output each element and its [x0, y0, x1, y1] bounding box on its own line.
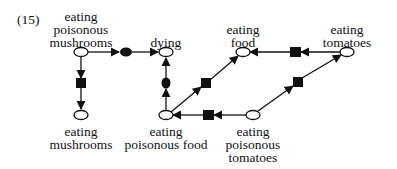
link-square-2 — [201, 78, 211, 88]
label-eating-tomatoes: eating tomatoes — [323, 23, 372, 49]
node-eating-poisonous-food — [159, 111, 173, 120]
link-ellipse-2 — [162, 78, 171, 89]
label-eating-poisonous-tomatoes: eating poisonous tomatoes — [226, 125, 281, 164]
link-square-4 — [293, 77, 303, 87]
edge-square-to-food — [210, 56, 238, 80]
label-eating-poisonous-mushrooms: eating poisonous mushrooms — [49, 10, 112, 49]
node-eating-mushrooms — [74, 111, 88, 120]
label-eating-mushrooms: eating mushrooms — [49, 125, 112, 151]
link-square-1 — [76, 78, 86, 88]
node-eating-poisonous-tomatoes — [246, 111, 260, 120]
edge-pf-to-square — [171, 87, 201, 112]
edge-square-to-tomatoes — [302, 55, 341, 78]
link-ellipse-1 — [120, 48, 132, 57]
link-square-3 — [290, 47, 301, 57]
label-eating-food: eating food — [227, 23, 260, 49]
link-square-5 — [203, 110, 214, 120]
edge-pt-to-square — [258, 86, 293, 111]
label-eating-poisonous-food: eating poisonous food — [125, 125, 208, 151]
label-dying: dying — [151, 36, 182, 49]
